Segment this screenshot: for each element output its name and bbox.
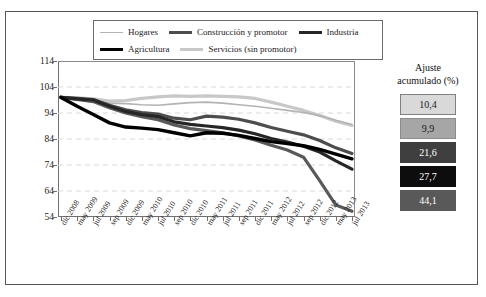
- series-line: [61, 97, 352, 211]
- legend-label-construccion: Construcción y promotor: [197, 28, 288, 37]
- legend-label-servicios: Servicios (sin promotor): [208, 45, 296, 54]
- adjustment-values: 10,49,921,627,744,1: [382, 94, 474, 211]
- legend-item-servicios: Servicios (sin promotor): [180, 45, 296, 54]
- x-axis-labels: dic 2008may 2009jul 2009sep 2009dic 2009…: [58, 220, 358, 290]
- legend-swatch-construccion: [169, 31, 192, 34]
- adjustment-title-line1: Ajuste: [382, 62, 474, 75]
- adjustment-title-line2: acumulado (%): [382, 75, 474, 88]
- legend-label-agricultura: Agricultura: [128, 45, 169, 54]
- adjustment-value-box: 10,4: [400, 94, 456, 115]
- y-axis-tick: [52, 191, 57, 192]
- legend-item-construccion: Construcción y promotor: [169, 28, 288, 37]
- legend-row-2: Agricultura Servicios (sin promotor): [100, 41, 376, 58]
- y-axis-labels: 1141049484746454: [28, 57, 54, 217]
- y-axis-tick: [52, 139, 57, 140]
- series-lines: [58, 61, 355, 217]
- chart-figure: Hogares Construcción y promotor Industri…: [0, 0, 486, 297]
- legend-label-industria: Industria: [327, 28, 359, 37]
- plot-area: 1141049484746454 dic 2008may 2009jul 200…: [28, 57, 368, 237]
- chart-legend: Hogares Construcción y promotor Industri…: [93, 20, 383, 60]
- y-axis-tick: [52, 61, 57, 62]
- y-axis-tick: [52, 165, 57, 166]
- legend-item-industria: Industria: [299, 28, 359, 37]
- legend-swatch-servicios: [180, 48, 203, 51]
- adjustment-value-box: 27,7: [400, 166, 456, 187]
- y-axis-tick: [52, 87, 57, 88]
- adjustment-value-box: 9,9: [400, 118, 456, 139]
- y-axis-tick: [52, 113, 57, 114]
- adjustment-value-box: 21,6: [400, 142, 456, 163]
- y-axis-tick: [52, 217, 57, 218]
- legend-swatch-agricultura: [100, 48, 123, 51]
- legend-item-hogares: Hogares: [100, 28, 158, 37]
- legend-swatch-hogares: [100, 32, 123, 33]
- adjustment-panel: Ajuste acumulado (%) 10,49,921,627,744,1: [382, 62, 474, 211]
- legend-row-1: Hogares Construcción y promotor Industri…: [100, 24, 376, 41]
- adjustment-value-box: 44,1: [400, 190, 456, 211]
- legend-item-agricultura: Agricultura: [100, 45, 169, 54]
- legend-swatch-industria: [299, 31, 322, 34]
- legend-label-hogares: Hogares: [128, 28, 158, 37]
